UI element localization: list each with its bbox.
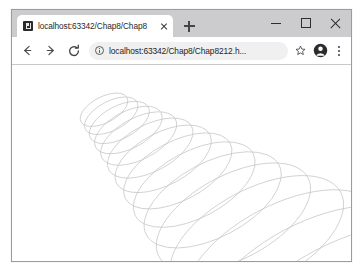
- browser-window: localhost:63342/Chap8/Chap8: [11, 9, 352, 262]
- info-circle-icon[interactable]: [95, 46, 104, 55]
- window-controls: [261, 10, 351, 37]
- spiral-ellipse: [129, 132, 297, 261]
- page-favicon-icon: [23, 21, 33, 31]
- spiral-ellipse: [111, 117, 244, 224]
- spiral-ellipse: [79, 89, 144, 142]
- close-window-button[interactable]: [321, 10, 351, 37]
- spiral-ellipse: [83, 93, 157, 153]
- forward-button[interactable]: [39, 39, 62, 62]
- spiral-ellipse: [151, 150, 351, 261]
- maximize-button[interactable]: [291, 10, 321, 37]
- three-dot-menu-icon[interactable]: [331, 41, 347, 61]
- url-text: localhost:63342/Chap8/Chap8212.h...: [109, 46, 246, 56]
- address-bar[interactable]: localhost:63342/Chap8/Chap8212.h...: [89, 42, 288, 60]
- spiral-ellipse: [195, 188, 351, 261]
- page-content-area: [12, 65, 351, 261]
- spiral-ellipse: [92, 101, 185, 176]
- spiral-ellipse: [139, 141, 328, 261]
- expanding-elliptical-spiral: [75, 86, 351, 261]
- spiral-ellipse: [104, 111, 222, 207]
- tab-strip: localhost:63342/Chap8/Chap8: [12, 10, 351, 37]
- account-avatar-icon[interactable]: [310, 41, 330, 61]
- tab-close-icon[interactable]: [158, 21, 169, 32]
- new-tab-button[interactable]: [179, 16, 199, 36]
- spiral-ellipse: [87, 96, 170, 163]
- browser-toolbar: localhost:63342/Chap8/Chap8212.h...: [12, 37, 351, 65]
- spiral-ellipse: [98, 106, 203, 191]
- browser-tab-title: localhost:63342/Chap8/Chap8: [38, 21, 156, 31]
- reload-button[interactable]: [62, 39, 85, 62]
- browser-tab-active[interactable]: localhost:63342/Chap8/Chap8: [17, 15, 173, 37]
- star-icon[interactable]: [291, 42, 309, 60]
- spiral-canvas: [12, 65, 351, 261]
- back-button[interactable]: [16, 39, 39, 62]
- spiral-ellipse: [120, 124, 269, 245]
- spiral-ellipse: [75, 86, 133, 133]
- minimize-button[interactable]: [261, 10, 291, 37]
